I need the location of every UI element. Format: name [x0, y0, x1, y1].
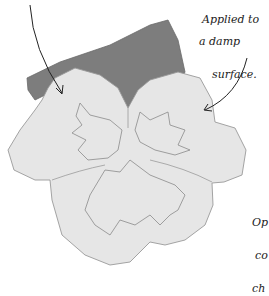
annotation-line: ch [252, 283, 268, 294]
annotation-line: a damp [195, 36, 259, 47]
annotation-line: surface. [195, 69, 259, 80]
annotation-side-note: Op co ch [252, 195, 268, 296]
annotation-damp-surface: Applied to a damp surface. [195, 3, 259, 91]
annotation-line: Applied to [202, 13, 259, 26]
annotation-line: Op [252, 217, 268, 228]
annotation-line: co [252, 250, 268, 261]
